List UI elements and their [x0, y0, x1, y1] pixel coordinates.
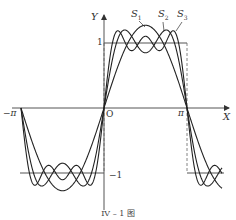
y-tick-neg-one: −1: [109, 171, 122, 180]
s2-label: S2: [158, 9, 169, 21]
x-axis-label: X: [223, 112, 230, 122]
origin-label: O: [106, 110, 113, 119]
fourier-series-figure: [0, 0, 236, 220]
s3-label: S3: [177, 9, 188, 21]
y-tick-one: 1: [97, 38, 103, 47]
pi-label: π: [178, 109, 184, 118]
label-arrows: [139, 21, 182, 31]
y-axis-label: Y: [91, 12, 98, 22]
s1-label: S1: [131, 9, 142, 21]
neg-pi-label: −π: [3, 109, 16, 118]
figure-caption: IV – 1 图: [0, 207, 236, 218]
